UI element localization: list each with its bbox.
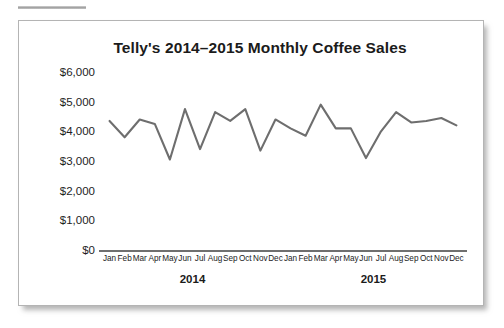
x-tick-label: Oct bbox=[239, 254, 252, 263]
x-tick-label: Jul bbox=[376, 254, 386, 263]
y-tick-label: $4,000 bbox=[21, 125, 95, 137]
x-tick-label: Nov bbox=[253, 254, 268, 263]
y-tick-label: $5,000 bbox=[21, 96, 95, 108]
x-tick-label: Jul bbox=[195, 254, 205, 263]
x-tick-label: Sep bbox=[404, 254, 419, 263]
y-tick-label: $0 bbox=[21, 244, 95, 256]
x-tick-label: Aug bbox=[208, 254, 223, 263]
x-tick-label: Jun bbox=[178, 254, 191, 263]
x-tick-label: Feb bbox=[118, 254, 132, 263]
x-tick-label: May bbox=[162, 254, 177, 263]
x-tick-label: May bbox=[343, 254, 358, 263]
x-tick-label: Sep bbox=[223, 254, 238, 263]
x-tick-label: Nov bbox=[434, 254, 449, 263]
plot-area: $0$1,000$2,000$3,000$4,000$5,000$6,000 J… bbox=[19, 21, 485, 307]
y-tick-label: $3,000 bbox=[21, 155, 95, 167]
y-tick-label: $2,000 bbox=[21, 185, 95, 197]
x-tick-label: Feb bbox=[299, 254, 313, 263]
x-tick-label: Jan bbox=[103, 254, 116, 263]
scan-rule-artifact bbox=[18, 6, 86, 9]
x-axis-group-labels: 20142015 bbox=[99, 273, 467, 293]
y-tick-label: $1,000 bbox=[21, 214, 95, 226]
chart-card: Telly's 2014–2015 Monthly Coffee Sales $… bbox=[18, 20, 484, 306]
x-tick-label: Apr bbox=[329, 254, 342, 263]
y-tick-label: $6,000 bbox=[21, 66, 95, 78]
y-axis: $0$1,000$2,000$3,000$4,000$5,000$6,000 bbox=[21, 21, 95, 307]
x-tick-label: Dec bbox=[449, 254, 464, 263]
x-tick-label: Mar bbox=[314, 254, 328, 263]
x-tick-label: Aug bbox=[389, 254, 404, 263]
sales-line bbox=[110, 105, 457, 160]
group-label: 2015 bbox=[361, 273, 387, 285]
x-tick-label: Mar bbox=[133, 254, 147, 263]
x-tick-label: Jan bbox=[284, 254, 297, 263]
x-tick-label: Apr bbox=[148, 254, 161, 263]
x-tick-label: Dec bbox=[268, 254, 283, 263]
x-tick-label: Jun bbox=[359, 254, 372, 263]
line-series bbox=[99, 61, 467, 253]
x-tick-label: Oct bbox=[420, 254, 433, 263]
group-label: 2014 bbox=[180, 273, 206, 285]
x-axis-tick-labels: JanFebMarAprMayJunJulAugSepOctNovDecJanF… bbox=[99, 254, 467, 268]
